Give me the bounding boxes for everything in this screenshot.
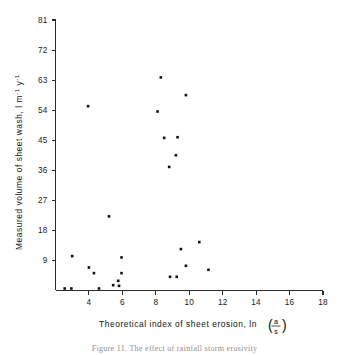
- x-tick-label: 6: [120, 298, 125, 307]
- y-axis-title: Measured volume of sheet wash, l m-1 y-1: [13, 74, 24, 250]
- data-point: [120, 272, 123, 275]
- data-point: [118, 285, 121, 288]
- data-point: [156, 110, 159, 113]
- data-point: [88, 266, 91, 269]
- data-point: [63, 287, 66, 290]
- data-point: [180, 248, 183, 251]
- data-point: [207, 268, 210, 271]
- data-point: [117, 280, 120, 283]
- data-point: [163, 137, 166, 140]
- y-axis-title-exponent-2: -1: [13, 74, 20, 81]
- data-point: [185, 94, 188, 97]
- y-tick-label: 72: [38, 46, 48, 55]
- data-point: [168, 166, 171, 169]
- x-axis-title: Theoretical index of sheet erosion, ln (…: [99, 317, 287, 336]
- y-tick-label: 81: [38, 16, 48, 25]
- data-point: [175, 154, 178, 157]
- y-tick-label: 45: [38, 136, 48, 145]
- data-point: [185, 264, 188, 267]
- x-axis-title-text: Theoretical index of sheet erosion, ln: [99, 319, 257, 329]
- x-tick-label: 4: [87, 298, 92, 307]
- y-tick-label: 9: [43, 256, 48, 265]
- data-point: [93, 272, 96, 275]
- data-point: [198, 241, 201, 244]
- data-point: [160, 76, 163, 79]
- y-tick-label: 36: [38, 166, 48, 175]
- y-tick-label: 63: [38, 76, 48, 85]
- fraction-open-paren: (: [268, 317, 273, 333]
- x-tick-label: 10: [184, 298, 194, 307]
- data-point: [71, 255, 74, 258]
- data-point: [169, 276, 172, 279]
- data-point: [175, 276, 178, 279]
- data-point: [70, 287, 73, 290]
- figure-caption: Figure 11. The effect of rainfall storm …: [0, 344, 349, 355]
- svg-text:Measured volume of sheet wash,: Measured volume of sheet wash, l m-1 y-1: [13, 74, 24, 250]
- data-point: [120, 256, 123, 259]
- fraction-denominator: s: [274, 327, 278, 336]
- y-tick-label: 54: [38, 106, 48, 115]
- x-tick-label: 18: [318, 298, 328, 307]
- y-axis-title-main: Measured volume of sheet wash, l m: [14, 95, 24, 250]
- y-axis-ticks: 91827364554637281: [38, 16, 56, 265]
- x-tick-label: 8: [153, 298, 158, 307]
- y-tick-label: 18: [38, 226, 48, 235]
- data-point: [98, 287, 101, 290]
- x-axis-ticks: 4681012141618: [87, 291, 328, 307]
- data-point: [108, 215, 111, 218]
- data-point: [112, 284, 115, 287]
- y-tick-label: 27: [38, 196, 48, 205]
- x-tick-label: 16: [285, 298, 295, 307]
- x-tick-label: 14: [251, 298, 261, 307]
- data-point: [176, 136, 179, 139]
- data-points-layer: [63, 76, 209, 290]
- fraction-close-paren: ): [282, 317, 287, 333]
- fraction-numerator: a: [274, 317, 278, 326]
- x-tick-label: 12: [218, 298, 228, 307]
- data-point: [87, 105, 90, 108]
